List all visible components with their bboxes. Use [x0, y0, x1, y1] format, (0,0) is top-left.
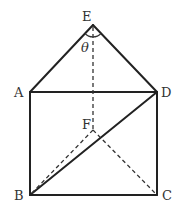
- edge-FC: [93, 130, 157, 195]
- label-C: C: [162, 188, 172, 203]
- edge-ED: [93, 25, 157, 92]
- edge-EA: [30, 25, 93, 92]
- dashed-edges: [30, 27, 157, 195]
- label-D: D: [161, 85, 171, 100]
- edge-FB: [30, 130, 93, 195]
- label-F: F: [82, 117, 91, 132]
- label-theta: θ: [81, 40, 89, 55]
- label-A: A: [13, 85, 24, 100]
- label-B: B: [14, 188, 24, 203]
- geometry-diagram: E θ A D F B C: [0, 0, 181, 220]
- label-E: E: [82, 9, 92, 24]
